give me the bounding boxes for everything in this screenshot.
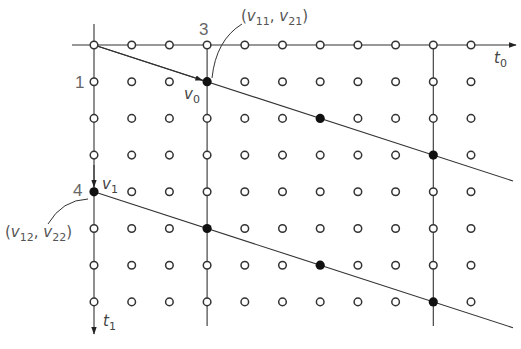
open-lattice-point <box>203 41 211 49</box>
open-lattice-point <box>166 78 174 86</box>
open-lattice-point <box>203 115 211 123</box>
open-lattice-point <box>430 261 438 269</box>
filled-lattice-point <box>316 114 325 123</box>
open-lattice-point <box>467 151 475 159</box>
open-lattice-point <box>467 115 475 123</box>
open-lattice-point <box>166 261 174 269</box>
open-lattice-point <box>90 41 98 49</box>
open-lattice-point <box>316 151 324 159</box>
annotation-v12-v22: (v12, v22) <box>5 225 72 243</box>
open-lattice-point <box>90 151 98 159</box>
axis-label-t0: t0 <box>494 51 507 69</box>
open-lattice-point <box>392 151 400 159</box>
filled-lattice-point <box>429 151 438 160</box>
open-lattice-point <box>128 261 136 269</box>
open-lattice-point <box>203 261 211 269</box>
open-lattice-point <box>354 41 362 49</box>
open-lattice-point <box>467 298 475 306</box>
open-lattice-point <box>316 41 324 49</box>
vertical-guide-lines <box>207 45 433 326</box>
open-lattice-point <box>128 188 136 196</box>
open-lattice-point <box>392 115 400 123</box>
open-lattice-point <box>128 78 136 86</box>
open-lattice-point <box>166 188 174 196</box>
open-lattice-point <box>279 298 287 306</box>
open-lattice-point <box>166 298 174 306</box>
open-lattice-point <box>128 298 136 306</box>
open-lattice-point <box>241 151 249 159</box>
open-lattice-point <box>128 115 136 123</box>
open-lattice-point <box>354 115 362 123</box>
open-lattice-point <box>316 225 324 233</box>
open-lattice-point <box>203 151 211 159</box>
open-lattice-point <box>316 298 324 306</box>
open-lattice-point <box>90 261 98 269</box>
leader-curve-v12-v22 <box>48 199 88 224</box>
open-lattice-point <box>354 261 362 269</box>
open-lattice-point <box>354 188 362 196</box>
open-lattice-point <box>203 188 211 196</box>
open-lattice-point <box>392 188 400 196</box>
open-lattice-point <box>279 188 287 196</box>
open-lattice-point <box>279 151 287 159</box>
leader-curve-v11-v21 <box>212 24 242 78</box>
open-lattice-point <box>166 151 174 159</box>
open-lattice-point <box>241 298 249 306</box>
open-lattice-point <box>354 298 362 306</box>
open-lattice-point <box>166 115 174 123</box>
open-lattice-point <box>241 261 249 269</box>
open-lattice-point <box>467 225 475 233</box>
open-lattice-point <box>90 225 98 233</box>
open-lattice-point <box>166 41 174 49</box>
open-lattice-point <box>467 261 475 269</box>
open-lattice-point <box>392 261 400 269</box>
axis-label-t1: t1 <box>103 314 116 332</box>
tick-label-row1: 1 <box>75 74 84 91</box>
filled-lattice-point <box>203 77 212 86</box>
open-lattice-point <box>430 78 438 86</box>
open-lattice-point <box>128 225 136 233</box>
open-lattice-point <box>430 115 438 123</box>
open-lattice-point <box>279 41 287 49</box>
open-lattice-point <box>241 41 249 49</box>
open-lattice-point <box>392 298 400 306</box>
open-lattice-point <box>166 225 174 233</box>
open-lattice-point <box>392 78 400 86</box>
open-lattice-point <box>279 115 287 123</box>
open-lattice-point <box>241 225 249 233</box>
open-lattice-point <box>279 78 287 86</box>
open-lattice-point <box>354 225 362 233</box>
open-lattice-point <box>392 41 400 49</box>
open-lattice-point <box>430 41 438 49</box>
filled-lattice-point <box>203 224 212 233</box>
tick-label-row4: 4 <box>73 182 82 199</box>
basis-vectors <box>94 45 202 187</box>
open-lattice-point <box>467 41 475 49</box>
lower-hyperplane <box>94 192 513 328</box>
open-lattice-point <box>430 225 438 233</box>
vector-label-v0: v0 <box>184 87 200 105</box>
tick-label-col3: 3 <box>199 21 208 38</box>
open-lattice-point <box>392 225 400 233</box>
open-lattice-point <box>430 188 438 196</box>
open-lattice-point <box>90 78 98 86</box>
hyperplane-lines <box>94 45 513 328</box>
lattice-diagram <box>0 0 521 349</box>
open-lattice-point <box>316 188 324 196</box>
vector-label-v1: v1 <box>102 177 118 195</box>
open-lattice-point <box>241 188 249 196</box>
filled-lattice-point <box>89 187 98 196</box>
annotation-v11-v21: (v11, v21) <box>241 9 308 27</box>
open-lattice-point <box>316 78 324 86</box>
lattice-points <box>89 41 474 306</box>
filled-lattice-point <box>316 261 325 270</box>
open-lattice-point <box>203 298 211 306</box>
open-lattice-point <box>128 151 136 159</box>
open-lattice-point <box>90 115 98 123</box>
open-lattice-point <box>354 151 362 159</box>
axes <box>72 24 516 334</box>
open-lattice-point <box>467 78 475 86</box>
open-lattice-point <box>128 41 136 49</box>
open-lattice-point <box>467 188 475 196</box>
open-lattice-point <box>241 115 249 123</box>
